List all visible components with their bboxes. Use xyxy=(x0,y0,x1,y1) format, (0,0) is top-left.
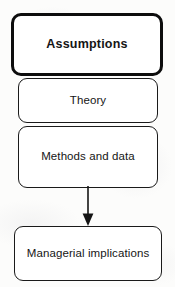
flowchart-node-methods[interactable]: Methods and data xyxy=(18,126,158,188)
arrow-down-icon xyxy=(78,186,98,228)
flowchart-node-assumptions[interactable]: Assumptions xyxy=(11,13,163,76)
flowchart-node-implications-label: Managerial implications xyxy=(27,247,149,260)
flowchart-node-assumptions-label: Assumptions xyxy=(46,37,127,51)
flowchart-diagram: Assumptions Theory Methods and data Mana… xyxy=(0,0,175,287)
flowchart-node-methods-label: Methods and data xyxy=(41,150,135,163)
flowchart-node-theory[interactable]: Theory xyxy=(18,78,158,123)
flowchart-node-implications[interactable]: Managerial implications xyxy=(14,226,162,281)
arrow-head xyxy=(83,214,94,227)
flowchart-node-theory-label: Theory xyxy=(70,94,106,107)
